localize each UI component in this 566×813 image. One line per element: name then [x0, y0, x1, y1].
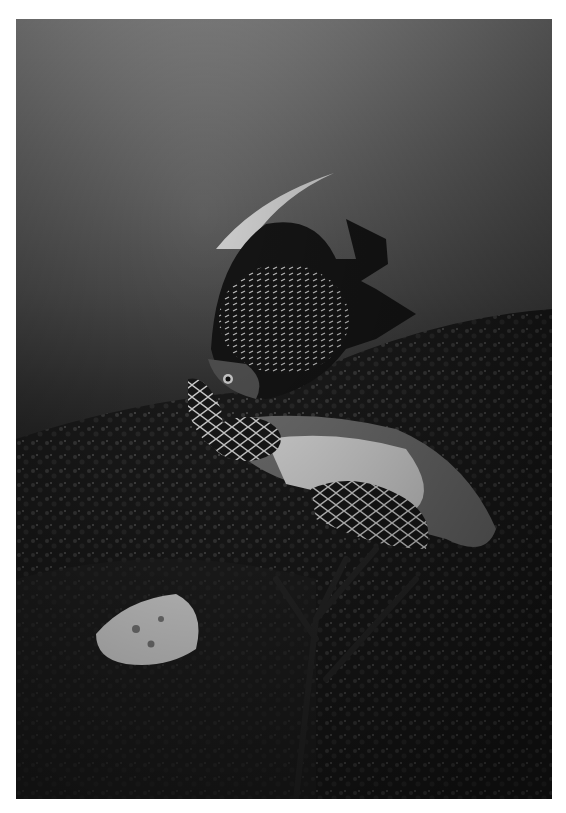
underwater-photo	[16, 19, 552, 799]
photo-scene	[16, 19, 552, 799]
